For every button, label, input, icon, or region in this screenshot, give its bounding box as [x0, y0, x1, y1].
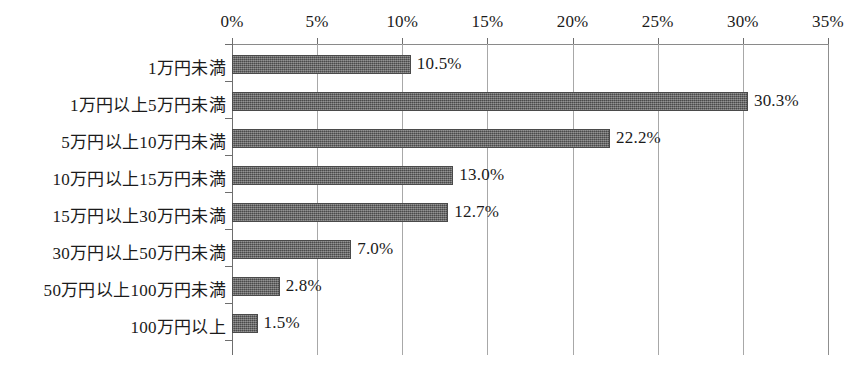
gridline-15pct [487, 44, 488, 355]
category-tick-mark [225, 340, 232, 341]
value-label: 2.8% [286, 276, 322, 296]
category-label: 15万円以上30万円未満 [0, 202, 226, 227]
bar [232, 277, 280, 296]
x-tick-label: 0% [220, 12, 243, 32]
value-label: 7.0% [357, 239, 393, 259]
x-tick-mark [317, 38, 318, 44]
category-label: 50万円以上100万円未満 [0, 276, 226, 301]
category-tick-mark [225, 266, 232, 267]
bar [232, 240, 351, 259]
bar [232, 314, 258, 333]
x-tick-mark [487, 38, 488, 44]
category-tick-mark [225, 44, 232, 45]
value-label: 12.7% [454, 202, 499, 222]
category-tick-mark [225, 155, 232, 156]
plot-area [232, 44, 828, 355]
value-label: 13.0% [459, 165, 504, 185]
value-label: 10.5% [417, 54, 462, 74]
bar [232, 92, 748, 111]
bar-chart: 0%5%10%15%20%25%30%35% 1万円未満1万円以上5万円未満5万… [0, 0, 863, 368]
gridline-0pct [232, 44, 233, 355]
x-tick-mark [573, 38, 574, 44]
gridline-10pct [402, 44, 403, 355]
x-tick-mark [743, 38, 744, 44]
gridline-30pct [743, 44, 744, 355]
category-tick-mark [225, 81, 232, 82]
value-label: 22.2% [616, 128, 661, 148]
category-label: 1万円未満 [0, 54, 226, 79]
value-label: 30.3% [754, 91, 799, 111]
category-label: 5万円以上10万円未満 [0, 128, 226, 153]
category-tick-mark [225, 229, 232, 230]
gridline-35pct [828, 44, 829, 355]
x-tick-label: 35% [812, 12, 844, 32]
bar [232, 55, 411, 74]
x-tick-label: 5% [306, 12, 329, 32]
category-label: 100万円以上 [0, 313, 226, 338]
category-tick-mark [225, 303, 232, 304]
category-tick-mark [225, 118, 232, 119]
category-label: 10万円以上15万円未満 [0, 165, 226, 190]
gridline-25pct [658, 44, 659, 355]
x-tick-label: 10% [386, 12, 418, 32]
x-tick-mark [658, 38, 659, 44]
x-tick-label: 15% [472, 12, 504, 32]
x-tick-mark [828, 38, 829, 44]
x-tick-label: 20% [557, 12, 589, 32]
gridline-5pct [317, 44, 318, 355]
gridline-20pct [573, 44, 574, 355]
x-tick-mark [402, 38, 403, 44]
bar [232, 129, 610, 148]
bar [232, 166, 453, 185]
category-label: 1万円以上5万円未満 [0, 91, 226, 116]
x-tick-label: 25% [642, 12, 674, 32]
category-label: 30万円以上50万円未満 [0, 239, 226, 264]
x-tick-mark [232, 38, 233, 44]
x-tick-label: 30% [727, 12, 759, 32]
category-tick-mark [225, 192, 232, 193]
value-label: 1.5% [264, 313, 300, 333]
bar [232, 203, 448, 222]
